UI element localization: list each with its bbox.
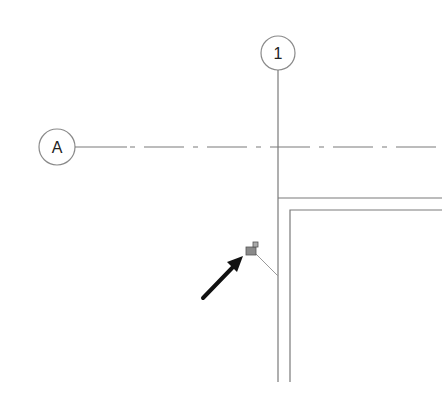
drawing-canvas: 1 A (0, 0, 442, 395)
arrow-pointer-icon (203, 256, 243, 298)
grid-label-a: A (52, 139, 63, 156)
wall[interactable] (278, 198, 442, 382)
grid-line-1[interactable]: 1 (261, 36, 295, 198)
grid-label-1: 1 (274, 45, 283, 62)
wall-inner[interactable] (290, 210, 442, 382)
leader-line (256, 254, 278, 276)
pin-tag-icon[interactable] (246, 242, 258, 255)
grid-line-a[interactable]: A (39, 129, 442, 165)
